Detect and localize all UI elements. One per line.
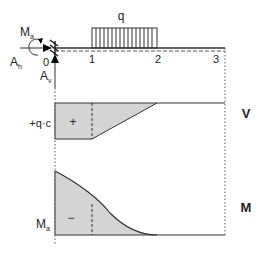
beam-diagram: q Ah Ma Av 0 1 2 3 + +q·c V	[0, 0, 263, 254]
tick-0: 0	[43, 56, 49, 68]
moment-diagram	[55, 171, 225, 235]
tick-1: 1	[89, 53, 95, 65]
horizontal-reaction-label: Ah	[10, 55, 22, 70]
moment-value-label: Ma	[36, 217, 50, 232]
distributed-load	[92, 28, 157, 48]
tick-3: 3	[213, 53, 219, 65]
moment-arrow-icon	[29, 38, 43, 55]
moment-sign: −	[67, 211, 74, 225]
horizontal-reaction-arrow-icon	[20, 44, 52, 52]
shear-diagram	[55, 103, 225, 139]
load-label: q	[118, 9, 125, 23]
tick-2: 2	[155, 53, 161, 65]
shear-value-label: +q·c	[29, 117, 51, 129]
moment-title: M	[241, 200, 252, 215]
vertical-reaction-label: Av	[40, 69, 52, 84]
shear-sign: +	[69, 115, 76, 129]
moment-label: Ma	[20, 25, 34, 40]
vertical-reaction-arrow-icon	[51, 54, 59, 88]
shear-title: V	[242, 106, 251, 121]
